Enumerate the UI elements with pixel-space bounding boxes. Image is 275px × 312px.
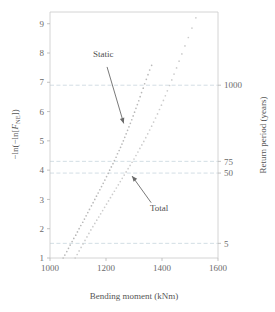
y2-tick-label: 1000 — [224, 80, 243, 90]
data-point — [166, 90, 168, 92]
y-tick-label: 1 — [40, 253, 45, 263]
data-point — [82, 243, 84, 245]
data-point — [187, 37, 189, 39]
y2-tick-label: 5 — [224, 239, 229, 249]
data-point — [117, 184, 119, 186]
data-point — [110, 197, 112, 199]
data-point — [125, 171, 127, 173]
data-point — [141, 92, 143, 94]
data-point — [82, 221, 84, 223]
data-point — [130, 122, 132, 124]
data-point — [102, 210, 104, 212]
annotation-label: Total — [150, 203, 169, 213]
y-tick-label: 3 — [40, 195, 45, 205]
data-point — [102, 182, 104, 184]
data-point — [155, 117, 157, 119]
data-point — [121, 143, 123, 145]
data-point — [127, 129, 129, 131]
data-point — [149, 69, 151, 71]
data-point — [110, 166, 112, 168]
y-tick-label: 6 — [40, 107, 45, 117]
data-point — [84, 240, 86, 242]
figure-root: 1000120014001600 123456789 100075505 Sta… — [0, 0, 275, 312]
data-point — [68, 247, 70, 249]
data-point — [169, 85, 171, 87]
data-point — [97, 192, 99, 194]
data-point — [86, 236, 88, 238]
data-point — [159, 109, 161, 111]
data-point — [149, 129, 151, 131]
data-point — [133, 158, 135, 160]
x-tick-label: 1400 — [153, 263, 172, 273]
data-point — [88, 233, 90, 235]
data-point — [165, 95, 167, 97]
data-point — [129, 165, 131, 167]
data-point — [151, 125, 153, 127]
data-point — [114, 190, 116, 192]
data-point — [100, 213, 102, 215]
data-point — [147, 74, 149, 76]
data-point — [91, 205, 93, 207]
data-point — [118, 150, 120, 152]
data-point — [157, 113, 159, 115]
data-point — [119, 181, 121, 183]
data-point — [115, 156, 117, 158]
data-point — [114, 160, 116, 162]
data-point — [87, 212, 89, 214]
data-point — [112, 163, 114, 165]
data-point — [137, 104, 139, 106]
x-tick-label: 1600 — [209, 263, 228, 273]
data-point — [73, 238, 75, 240]
data-point — [139, 96, 141, 98]
data-point — [90, 229, 92, 231]
data-point — [75, 234, 77, 236]
data-point — [85, 215, 87, 217]
data-point — [145, 79, 147, 81]
data-point — [134, 111, 136, 113]
data-point — [144, 83, 146, 85]
data-point — [92, 226, 94, 228]
data-point — [181, 53, 183, 55]
data-point — [131, 119, 133, 121]
data-point — [141, 144, 143, 146]
data-point — [191, 27, 193, 29]
data-point — [78, 228, 80, 230]
data-point — [106, 203, 108, 205]
data-point — [171, 79, 173, 81]
data-point — [138, 100, 140, 102]
data-point — [108, 200, 110, 202]
y2-tick-label: 75 — [224, 157, 234, 167]
data-point — [77, 231, 79, 233]
data-point — [99, 189, 101, 191]
data-point — [173, 73, 175, 75]
data-point — [94, 199, 96, 201]
data-point — [94, 223, 96, 225]
data-point — [104, 206, 106, 208]
data-point — [117, 153, 119, 155]
data-point — [96, 195, 98, 197]
y-tick-label: 5 — [40, 136, 45, 146]
y2-axis-title: Return period (years) — [258, 97, 268, 174]
y-tick-label: 2 — [40, 224, 45, 234]
x-tick-label: 1200 — [97, 263, 116, 273]
y2-tick-label: 50 — [224, 168, 234, 178]
data-point — [135, 108, 137, 110]
data-point — [78, 250, 80, 252]
data-point — [139, 148, 141, 150]
data-point — [84, 218, 86, 220]
data-point — [143, 141, 145, 143]
data-point — [137, 151, 139, 153]
data-point — [71, 241, 73, 243]
y-tick-label: 8 — [40, 48, 45, 58]
data-point — [66, 251, 68, 253]
data-point — [120, 146, 122, 148]
data-point — [107, 173, 109, 175]
data-point — [69, 244, 71, 246]
data-point — [89, 209, 91, 211]
data-point — [76, 254, 78, 256]
data-point — [127, 168, 129, 170]
data-point — [123, 140, 125, 142]
data-point — [121, 177, 123, 179]
y-tick-label: 4 — [40, 165, 45, 175]
data-point — [128, 126, 130, 128]
